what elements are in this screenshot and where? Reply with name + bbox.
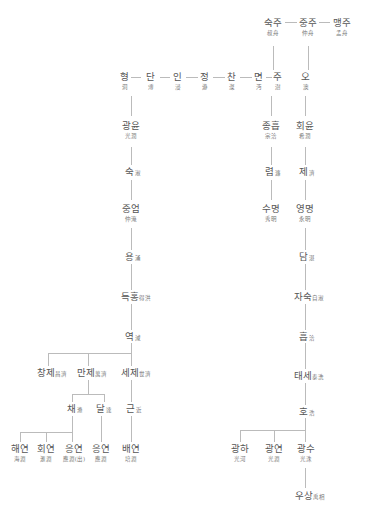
connector (20, 432, 21, 442)
name-hanja: 應淵 (92, 455, 110, 463)
name-hanja: 洽 (309, 335, 315, 341)
connector (104, 394, 105, 402)
name-hanja: 滙淵 (37, 455, 55, 463)
name-hanja: 近 (136, 407, 142, 413)
person-jasuk: 자숙自淑 (294, 291, 325, 304)
person-o: 오 澳 (301, 71, 310, 91)
name-korean: 단 (146, 71, 155, 83)
connector (305, 343, 306, 369)
name-korean: 근 (126, 403, 135, 414)
name-korean: 종흡 (262, 120, 280, 132)
name-hanja: 海淵 (11, 455, 29, 463)
connector (308, 46, 309, 70)
person-yeongmyeong: 영명 永明 (296, 203, 314, 223)
name-korean: 응연 (92, 443, 110, 455)
connector (131, 264, 132, 290)
name-hanja: 光洙 (297, 455, 315, 463)
connector (305, 96, 306, 116)
person-gwangyun: 광윤 光潤 (122, 120, 140, 140)
name-korean: 인 (173, 71, 182, 83)
name-korean: 창제 (37, 367, 55, 378)
name-korean: 회윤 (296, 120, 314, 132)
person-eungyeon-1: 응연 應淵(出) (63, 443, 85, 463)
name-korean: 형 (120, 71, 129, 83)
person-changje: 창제昌濟 (37, 367, 68, 380)
connector (101, 416, 102, 442)
name-hanja: 光淵 (265, 455, 283, 463)
name-korean: 주 (273, 71, 282, 83)
name-korean: 득홍 (121, 291, 139, 302)
connector (305, 304, 306, 330)
name-hanja: 禹相 (313, 494, 325, 500)
connector (72, 416, 73, 432)
connector (305, 147, 306, 165)
name-hanja: 濂 (275, 170, 281, 176)
connector (131, 147, 132, 165)
person-seje: 세제世濟 (121, 367, 152, 380)
person-gwangsu: 광수 光洙 (297, 443, 315, 463)
name-korean: 제 (299, 166, 308, 177)
person-sukju: 숙주 叔舟 (264, 17, 282, 37)
name-korean: 오 (301, 71, 310, 83)
name-hanja: 洞 (120, 83, 129, 91)
name-korean: 세제 (121, 367, 139, 378)
name-hanja: 培淵 (122, 455, 140, 463)
name-korean: 중주 (299, 17, 317, 29)
name-hanja: 應淵(出) (63, 455, 85, 463)
person-yeok: 역淢 (125, 331, 140, 344)
connector (131, 180, 132, 200)
name-korean: 중엄 (122, 203, 140, 215)
name-korean: 역 (125, 331, 134, 342)
name-hanja: 宗洽 (262, 132, 280, 140)
name-hanja: 滌 (77, 407, 83, 413)
name-hanja: 澳 (301, 83, 310, 91)
person-ho: 호浩 (299, 406, 314, 419)
name-hanja: 得洪 (139, 295, 151, 301)
name-hanja: 浸 (173, 83, 182, 91)
connector (88, 353, 89, 366)
name-hanja: 希潤 (296, 132, 314, 140)
person-baeyeon: 배연 培淵 (122, 443, 140, 463)
name-korean: 자숙 (294, 291, 312, 302)
name-korean: 정 (200, 71, 209, 83)
connector (271, 180, 272, 200)
person-gwangyeon: 광연 光淵 (265, 443, 283, 463)
name-korean: 찬 (227, 71, 236, 83)
name-hanja: 光河 (231, 455, 249, 463)
name-hanja: 涌 (135, 255, 141, 261)
name-korean: 호 (299, 406, 308, 417)
name-korean: 응연 (63, 443, 85, 455)
connector (271, 147, 272, 165)
connector (305, 264, 306, 290)
name-korean: 태세 (294, 370, 312, 381)
connector (266, 77, 272, 78)
connector (305, 468, 306, 488)
person-haeyeon: 해연 海淵 (11, 443, 29, 463)
connector (88, 380, 89, 394)
person-deukhong: 득홍得洪 (121, 291, 152, 304)
person-eungyeon-2: 응연 應淵 (92, 443, 110, 463)
connector (305, 430, 306, 442)
connector (131, 353, 132, 366)
person-jungju: 중주 仲舟 (299, 17, 317, 37)
name-korean: 용 (125, 251, 134, 262)
person-hyeong: 형 洞 (120, 71, 129, 91)
person-jongheup: 종흡 宗洽 (262, 120, 280, 140)
connector (240, 430, 241, 442)
person-myeon: 면 沔 (254, 71, 263, 91)
connector (72, 394, 73, 402)
person-sumyeong: 수명 秀明 (262, 203, 280, 223)
connector (131, 228, 132, 250)
name-hanja: 光潤 (122, 132, 140, 140)
person-in: 인 浸 (173, 71, 182, 91)
connector (160, 77, 170, 78)
person-manje: 만제萬濟 (77, 367, 108, 380)
name-hanja: 濟 (309, 170, 315, 176)
name-korean: 광수 (297, 443, 315, 455)
connector (46, 432, 47, 442)
name-hanja: 秀明 (262, 215, 280, 223)
name-korean: 우상 (295, 490, 313, 501)
name-korean: 면 (254, 71, 263, 83)
name-korean: 렴 (265, 166, 274, 177)
person-ju: 주 澍 (273, 71, 282, 91)
